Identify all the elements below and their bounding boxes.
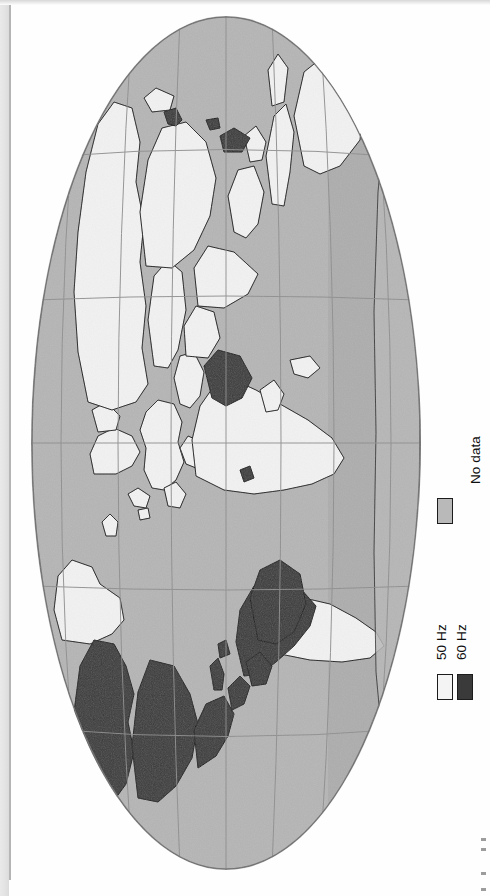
scan-top-shadow [0, 0, 490, 5]
region-new-zealand [328, 20, 358, 40]
legend-label-60hz: 60 Hz [454, 624, 469, 660]
legend-label-50hz: 50 Hz [434, 624, 449, 660]
scan-edge-marks [478, 832, 488, 894]
map-svg [28, 14, 424, 872]
page-border-line [9, 0, 11, 880]
legend-swatch-no-data [437, 498, 453, 524]
world-map [28, 14, 424, 872]
legend-swatch-50hz [437, 674, 453, 700]
region-new-zealand-north [312, 32, 326, 48]
scanned-page: No data 50 Hz 60 Hz [0, 0, 490, 896]
region-ireland [138, 508, 150, 520]
region-canada [74, 640, 134, 808]
map-rotated-canvas [28, 14, 424, 872]
legend-swatch-60hz [457, 674, 473, 700]
region-europe-west [140, 400, 184, 490]
legend-label-no-data: No data [468, 436, 483, 484]
scan-edge-strip [0, 0, 9, 896]
region-alaska [90, 806, 122, 858]
